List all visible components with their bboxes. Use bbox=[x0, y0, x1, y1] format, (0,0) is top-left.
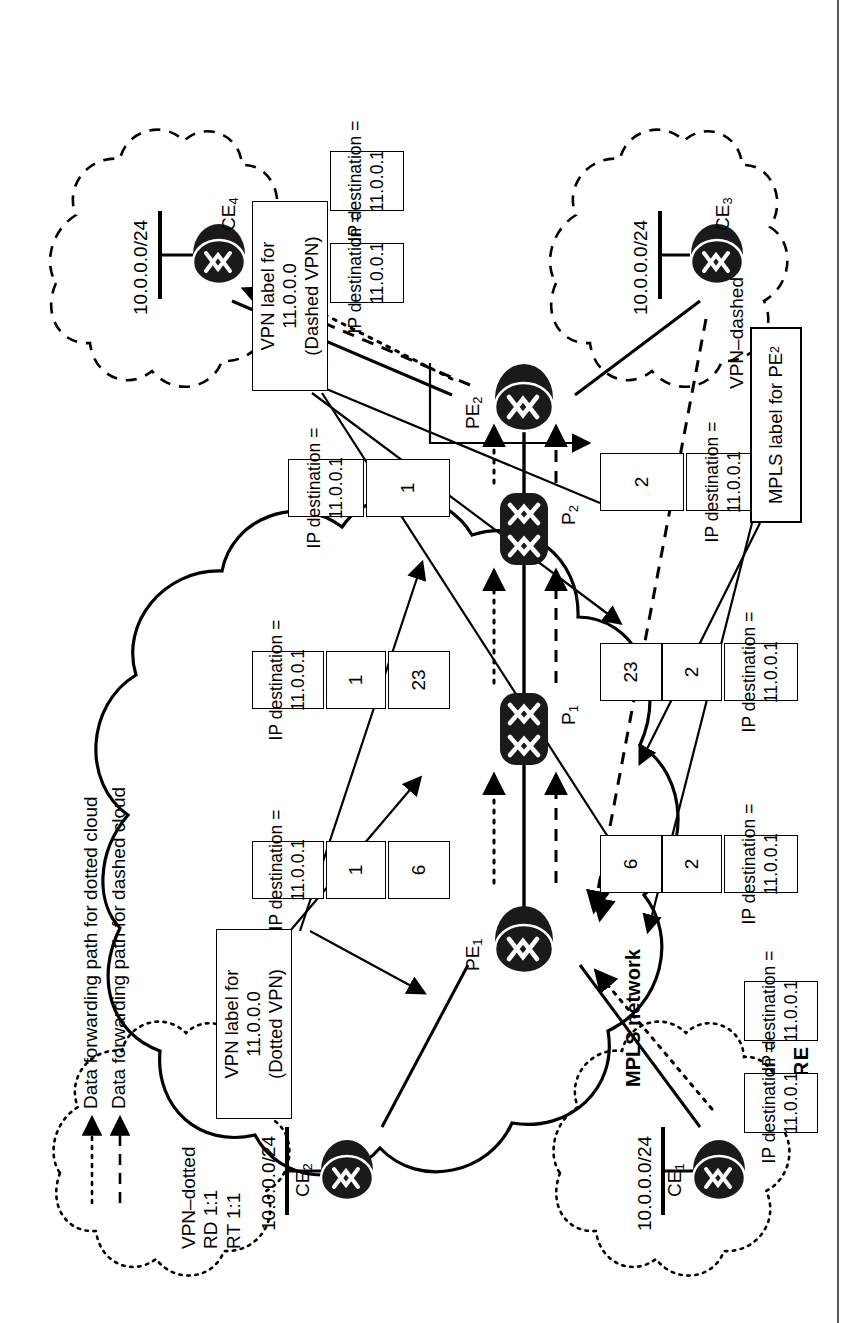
page-margin-rule bbox=[837, 0, 839, 1323]
vpn-dotted-rt: RT 1:1 bbox=[223, 1147, 245, 1249]
callout-line1: VPN label for 11.0.0.0 bbox=[221, 936, 265, 1112]
label-stack-dotted-hop3-inner: 1 bbox=[366, 459, 450, 517]
mpls-cloud bbox=[96, 496, 678, 1174]
callout-line1-sub: 2 bbox=[768, 346, 783, 353]
core-label: MPLS network bbox=[622, 949, 646, 1087]
subnet-label-ce3: 10.0.0.0/24 bbox=[630, 220, 652, 315]
callout-line1: MPLS label for PE bbox=[765, 353, 787, 504]
ip-packet-line1: IP destination = bbox=[739, 804, 761, 925]
label-stack-dashed-hop1-inner: 2 bbox=[662, 835, 722, 893]
router-label-ce4: CE4 bbox=[218, 197, 241, 231]
ip-packet-line1: IP destination = bbox=[739, 612, 761, 733]
callout-line1: VPN label for 11.0.0.0 bbox=[257, 208, 301, 384]
label-stack-dashed-hop2-outer: 23 bbox=[600, 643, 662, 701]
router-icon-p2 bbox=[494, 483, 558, 575]
label-stack-dashed-hop3-inner: 2 bbox=[600, 453, 684, 511]
ip-packet-line1: IP destination = bbox=[304, 428, 326, 549]
subnet-label-ce2: 10.0.0.0/24 bbox=[258, 1136, 280, 1231]
ip-packet-ce2-edge: IP destination = 11.0.0.1 bbox=[330, 243, 404, 303]
ip-packet-line2: 11.0.0.1 bbox=[288, 649, 310, 711]
callout-line2: (Dotted VPN) bbox=[265, 969, 287, 1079]
diagram-canvas: MPLS network VPN–dotted RD 1:1 RT 1:1 VP… bbox=[0, 0, 830, 1323]
callout-vpn-label-dotted: VPN label for 11.0.0.0 (Dotted VPN) bbox=[216, 929, 292, 1119]
router-icon-pe2 bbox=[492, 359, 560, 437]
ip-packet-line1: IP destination = bbox=[266, 620, 288, 741]
subnet-label-ce4: 10.0.0.0/24 bbox=[130, 220, 152, 315]
diagram-rotation-wrapper: MPLS network VPN–dotted RD 1:1 RT 1:1 VP… bbox=[0, 0, 830, 1323]
vpn-dashed-name: VPN–dashed bbox=[726, 277, 748, 389]
label-stack-dotted-hop2-outer: 23 bbox=[388, 651, 450, 709]
ip-packet-line2: 11.0.0.1 bbox=[781, 980, 803, 1042]
router-label-pe1: PE1 bbox=[462, 938, 485, 971]
router-label-ce3: CE3 bbox=[712, 197, 735, 231]
ip-packet-line2: 11.0.0.1 bbox=[288, 839, 310, 901]
ip-packet-dotted-hop3: IP destination = 11.0.0.1 bbox=[288, 459, 364, 517]
router-label-p2: P2 bbox=[558, 505, 581, 525]
ip-packet-line1: IP destination = bbox=[345, 121, 367, 242]
ip-packet-ce3-edge: IP destination = 11.0.0.1 bbox=[744, 1073, 818, 1133]
ip-packet-dotted-hop2: IP destination = 11.0.0.1 bbox=[252, 651, 324, 709]
ip-packet-dotted-hop1: IP destination = 11.0.0.1 bbox=[252, 841, 324, 899]
router-icon-p1 bbox=[494, 683, 558, 775]
router-icon-ce1 bbox=[690, 1135, 752, 1205]
router-icon-ce2 bbox=[318, 1135, 380, 1205]
ip-packet-line1: IP destination = bbox=[759, 1043, 781, 1164]
router-label-p1: P1 bbox=[558, 705, 581, 725]
legend-text-dotted: Data forwarding path for dotted cloud bbox=[80, 796, 102, 1109]
ip-packet-line2: 11.0.0.1 bbox=[326, 457, 348, 519]
ip-packet-dashed-hop1: IP destination = 11.0.0.1 bbox=[724, 835, 798, 893]
router-label-ce1: CE1 bbox=[664, 1163, 687, 1197]
ip-packet-line2: 11.0.0.1 bbox=[724, 451, 746, 513]
ip-packet-line2: 11.0.0.1 bbox=[367, 150, 389, 212]
figure-page: FIGURE 12.9 bbox=[0, 0, 863, 1323]
label-stack-dashed-hop2-inner: 2 bbox=[662, 643, 722, 701]
label-stack-dotted-hop2-inner: 1 bbox=[326, 651, 386, 709]
router-icon-pe1 bbox=[492, 901, 560, 979]
vpn-dotted-info: VPN–dotted RD 1:1 RT 1:1 bbox=[178, 1147, 245, 1249]
subnet-label-ce1: 10.0.0.0/24 bbox=[634, 1136, 656, 1231]
router-label-ce2: CE2 bbox=[292, 1163, 315, 1197]
legend-text-dashed: Data forwarding path for dashed cloud bbox=[108, 787, 130, 1109]
router-label-pe2: PE2 bbox=[462, 396, 485, 429]
ip-packet-line2: 11.0.0.1 bbox=[761, 641, 783, 703]
callout-vpn-label-dashed: VPN label for 11.0.0.0 (Dashed VPN) bbox=[252, 201, 328, 391]
label-stack-dashed-hop1-outer: 6 bbox=[600, 835, 662, 893]
callout-line2: (Dashed VPN) bbox=[301, 236, 323, 355]
label-stack-dotted-hop1-outer: 6 bbox=[388, 841, 450, 899]
ip-packet-line1: IP destination = bbox=[702, 422, 724, 543]
vpn-dotted-name: VPN–dotted bbox=[178, 1147, 200, 1249]
ip-packet-line2: 11.0.0.1 bbox=[761, 833, 783, 895]
label-stack-dotted-hop1-inner: 1 bbox=[326, 841, 386, 899]
ip-packet-ce4-edge: IP destination = 11.0.0.1 bbox=[330, 151, 404, 211]
ip-packet-ce1-edge: IP destination = 11.0.0.1 bbox=[744, 981, 818, 1041]
callout-mpls-label-pe2: MPLS label for PE2 bbox=[750, 327, 802, 523]
ip-packet-line2: 11.0.0.1 bbox=[367, 242, 389, 304]
ip-packet-line2: 11.0.0.1 bbox=[781, 1072, 803, 1134]
legend-arrows bbox=[92, 1118, 120, 1203]
ip-packet-dashed-hop2: IP destination = 11.0.0.1 bbox=[724, 643, 798, 701]
vpn-dotted-rd: RD 1:1 bbox=[200, 1147, 222, 1249]
ip-packet-line1: IP destination = bbox=[266, 810, 288, 931]
